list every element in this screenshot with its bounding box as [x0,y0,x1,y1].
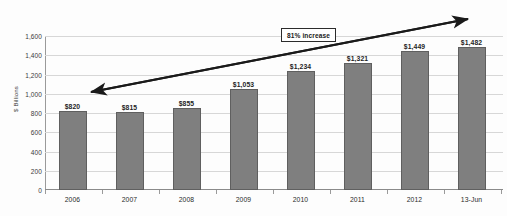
bar [401,51,429,190]
y-tick-label: 1,600 [2,33,42,40]
bar [344,63,372,190]
bar-slot: $855 [159,36,214,190]
bar-chart: 1,600 1,400 1,200 1,000 800 600 400 200 … [0,0,507,216]
bar-value-label: $1,482 [444,39,499,46]
bar-slot: $1,482 [444,36,499,190]
bar-slot: $820 [45,36,100,190]
bar-slot: $1,053 [216,36,271,190]
x-tick-label: 2007 [102,196,157,203]
y-tick-label: 800 [2,110,42,117]
x-tick-label: 2008 [159,196,214,203]
y-axis-ticks: 1,600 1,400 1,200 1,000 800 600 400 200 … [0,36,42,190]
x-tick-label: 2006 [45,196,100,203]
bar [230,89,258,190]
bar-value-label: $1,321 [330,55,385,62]
y-tick-label: 0 [2,187,42,194]
plot-area: $820 $815 $855 $1,053 $1,234 $1,321 $1,4… [45,36,503,190]
bar-slot: $1,449 [387,36,442,190]
bar-slot: $1,234 [273,36,328,190]
bar-value-label: $855 [159,100,214,107]
bar-value-label: $1,053 [216,81,271,88]
y-tick-label: 400 [2,148,42,155]
bar [173,108,201,190]
bar-value-label: $1,234 [273,63,328,70]
bar-slot: $815 [102,36,157,190]
bar-value-label: $820 [45,103,100,110]
bar [59,111,87,190]
x-tick-label: 13-Jun [444,196,499,203]
percent-increase-label: 81% increase [287,32,330,39]
y-tick-label: 200 [2,167,42,174]
x-tick-label: 2012 [387,196,442,203]
bar-value-label: $1,449 [387,43,442,50]
x-tick-label: 2010 [273,196,328,203]
y-tick-label: 1,200 [2,71,42,78]
x-tick-label: 2011 [330,196,385,203]
bar [287,71,315,190]
bar-slot: $1,321 [330,36,385,190]
percent-increase-callout: 81% increase [281,28,336,42]
y-tick-label: 1,000 [2,90,42,97]
y-tick-label: 1,400 [2,52,42,59]
x-tick-label: 2009 [216,196,271,203]
y-tick-label: 600 [2,129,42,136]
x-axis-ticks: 2006 2007 2008 2009 2010 2011 2012 13-Ju… [45,194,503,212]
bar-value-label: $815 [102,104,157,111]
bar [116,112,144,190]
bar [458,47,486,190]
y-axis-title: $ Billions [13,69,19,129]
